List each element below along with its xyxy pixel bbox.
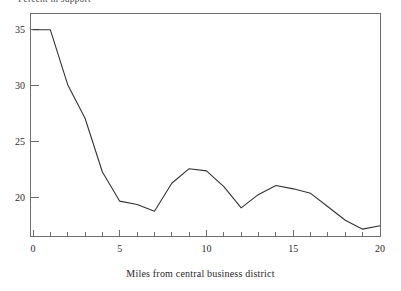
y-tick-label: 30 <box>3 80 25 91</box>
x-tick-label: 0 <box>20 243 46 254</box>
y-tick-label: 20 <box>3 192 25 203</box>
y-tick-label: 35 <box>3 24 25 35</box>
x-tick-label: 20 <box>367 243 393 254</box>
chart-figure: Percent in support 20253035 05101520 Mil… <box>0 0 401 291</box>
data-series-group <box>33 30 380 229</box>
plot-canvas <box>30 13 381 237</box>
x-axis-label: Miles from central business district <box>0 268 401 279</box>
chart-title: Percent in support <box>18 0 91 4</box>
y-tick-label: 25 <box>3 136 25 147</box>
x-tick-label: 10 <box>194 243 220 254</box>
x-axis-ticks <box>33 230 380 237</box>
y-axis-ticks <box>30 30 39 198</box>
x-tick-label: 5 <box>107 243 133 254</box>
x-tick-label: 15 <box>280 243 306 254</box>
